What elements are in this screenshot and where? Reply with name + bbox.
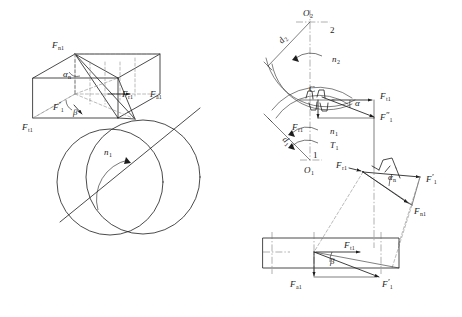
left-label-F-prime-1: F′1 — [52, 100, 64, 113]
left-label-beta: β — [72, 107, 78, 117]
rotation-indicator-n1 — [96, 157, 131, 210]
right-label-Fr1-lower: Fr1 — [335, 160, 347, 171]
right-label-T1: T1 — [330, 140, 339, 151]
lower-label-beta: β — [329, 256, 335, 266]
lower-rectangle-view — [263, 232, 399, 274]
right-label-n1: n1 — [330, 126, 338, 137]
lower-label-Ft1: Ft1 — [343, 240, 355, 251]
right-label-alpha-n: αn — [388, 172, 396, 183]
right-label-Fr1-upper: Fr1 — [291, 122, 303, 133]
right-label-gear1-number: 1 — [313, 150, 318, 160]
right-label-n2: n2 — [332, 54, 340, 65]
right-label-O2: O2 — [303, 8, 313, 19]
right-label-mesh-point-C: C — [309, 84, 315, 94]
mesh-teeth-profile — [300, 90, 334, 111]
right-label-F-dprime-1: F″1 — [379, 110, 393, 123]
left-label-Fn1: Fn1 — [51, 40, 64, 51]
gear-1-group — [264, 87, 352, 160]
engineering-drawing: n1 — [0, 0, 462, 317]
left-view-group: n1 — [21, 40, 200, 235]
projection-construction-lines — [314, 168, 420, 268]
inclined-tooth-force-group — [349, 158, 420, 205]
right-label-Fn1: Fn1 — [413, 206, 426, 217]
right-label-alpha: α — [355, 98, 360, 108]
diagram-canvas: n1 — [0, 0, 462, 317]
lower-label-F-prime-1: F′1 — [381, 277, 393, 290]
lower-force-triangle — [314, 252, 379, 277]
left-label-Ft1: Ft1 — [21, 122, 33, 133]
left-label-Fr1: Fr1 — [121, 89, 133, 100]
lower-label-Fa1: Fa1 — [289, 279, 302, 290]
right-label-O1: O1 — [304, 165, 314, 176]
left-speed-n1-label: n1 — [104, 147, 112, 158]
right-label-d2: d2 — [276, 33, 290, 46]
cylinder-body — [57, 108, 200, 235]
right-view-group: O2 d2 2 n2 C — [263, 8, 437, 290]
left-label-alpha-n: αn — [63, 69, 71, 80]
right-label-Ft1-upper: Ft1 — [379, 91, 391, 102]
right-label-F-prime-1: F′1 — [425, 172, 437, 185]
right-label-gear2-number: 2 — [330, 25, 335, 35]
